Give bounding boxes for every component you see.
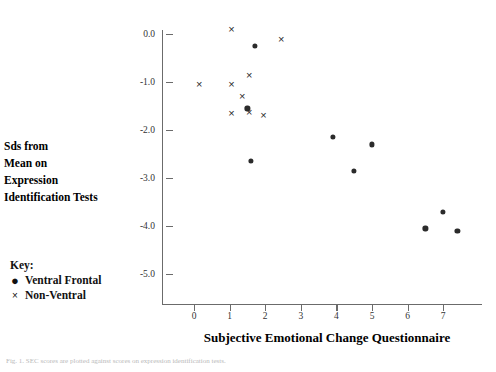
y-tick <box>166 82 173 83</box>
y-tick-label: -4.0 <box>0 221 155 231</box>
legend-title: Key: <box>10 258 101 273</box>
data-point-non-ventral: × <box>226 79 237 90</box>
data-point-non-ventral: × <box>226 24 237 35</box>
data-point-non-ventral: × <box>244 106 255 117</box>
data-point-ventral-frontal <box>369 142 374 147</box>
figure-caption: Fig. 1. SEC scores are plotted against s… <box>6 357 492 365</box>
y-axis-line <box>162 30 163 305</box>
legend: Key: ● Ventral Frontal × Non-Ventral <box>10 258 101 303</box>
x-tick-label: 5 <box>370 311 375 321</box>
data-point-ventral-frontal <box>252 43 257 48</box>
data-point-ventral-frontal <box>352 168 357 173</box>
legend-item-ventral-frontal: ● Ventral Frontal <box>10 273 101 288</box>
data-point-non-ventral: × <box>226 108 237 119</box>
scatter-plot-figure: 0.0-1.0-2.0-3.0-4.0-5.0 01234567 ×××××××… <box>0 0 496 372</box>
y-axis-title: Sds from Mean on Expression Identificati… <box>4 138 98 206</box>
x-axis-line <box>162 304 482 305</box>
x-tick-label: 2 <box>263 311 268 321</box>
y-tick-label: -2.0 <box>0 125 155 135</box>
y-axis-title-line-4: Identification Tests <box>4 189 98 206</box>
y-axis-title-line-2: Mean on <box>4 155 98 172</box>
legend-item-non-ventral: × Non-Ventral <box>10 288 101 303</box>
legend-label-non-ventral: Non-Ventral <box>25 288 86 303</box>
dot-marker-icon: ● <box>10 275 20 286</box>
cross-marker-icon: × <box>10 288 20 303</box>
x-tick-label: 4 <box>334 311 339 321</box>
data-point-ventral-frontal <box>248 159 253 164</box>
y-tick-label: -1.0 <box>0 77 155 87</box>
legend-label-ventral-frontal: Ventral Frontal <box>25 273 101 288</box>
data-point-non-ventral: × <box>194 79 205 90</box>
y-tick <box>166 130 173 131</box>
y-tick <box>166 274 173 275</box>
x-tick-label: 1 <box>227 311 232 321</box>
y-tick-label: 0.0 <box>0 29 155 39</box>
x-tick-label: 0 <box>192 311 197 321</box>
x-tick-label: 7 <box>441 311 446 321</box>
data-point-non-ventral: × <box>237 91 248 102</box>
data-point-ventral-frontal <box>455 228 460 233</box>
data-point-ventral-frontal <box>423 226 428 231</box>
y-axis-title-line-3: Expression <box>4 172 98 189</box>
y-axis-title-line-1: Sds from <box>4 138 98 155</box>
data-point-non-ventral: × <box>258 109 269 120</box>
x-tick-label: 3 <box>298 311 303 321</box>
data-point-non-ventral: × <box>276 33 287 44</box>
y-tick <box>166 34 173 35</box>
x-axis-title: Subjective Emotional Change Questionnair… <box>162 330 492 346</box>
data-point-ventral-frontal <box>330 135 335 140</box>
y-tick <box>166 178 173 179</box>
y-tick <box>166 226 173 227</box>
data-point-ventral-frontal <box>441 209 446 214</box>
data-point-non-ventral: × <box>244 69 255 80</box>
x-tick-label: 6 <box>405 311 410 321</box>
